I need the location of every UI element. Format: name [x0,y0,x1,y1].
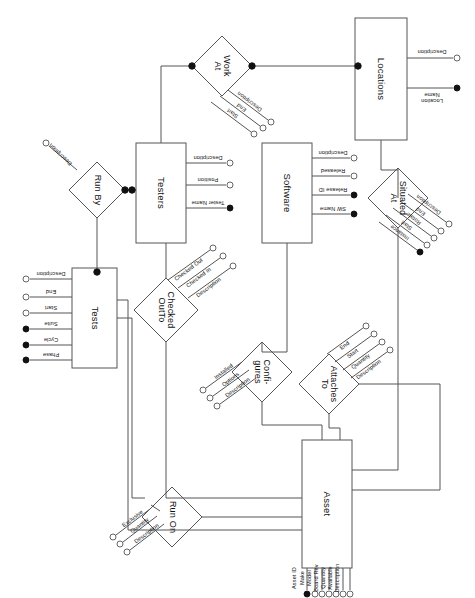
participation-dot-run-by-right [122,187,128,193]
attr-bubble-locations-description [454,55,460,61]
attr-bubble-tests-description [23,276,29,282]
attr-bubble-testers-position [227,182,233,188]
attr-bubble-testers-description [227,160,233,166]
participation-dot-locations-left [355,63,361,69]
attr-bubble-attaches-to-quantity [379,339,385,345]
attr-bubble-testers-tester-name [227,205,233,211]
entity-box-asset [302,440,352,568]
attr-bubble-attaches-to-start [371,331,377,337]
relationship-diamond-attaches-to [299,354,359,414]
attr-stem-run-on-exclusive [116,509,150,535]
attr-bubble-work-at-description [268,119,274,125]
relationship-diamond-checked-outto [134,278,198,342]
attr-stem-work-at-start [211,102,251,132]
attr-bubble-work-at-start [251,131,257,137]
entity-box-tests [72,268,117,368]
attr-bubble-asset-model [319,591,325,597]
relationship-diamond-work-at [192,36,252,96]
attr-bubble-situated-at-instance [417,249,423,255]
attr-stem-work-at-description [228,90,268,120]
attr-stem-attaches-to-start [335,336,371,362]
link-tests-run-on-a [117,318,145,498]
attr-stem-attaches-to-quantity [343,344,379,370]
attr-bubble-work-at-end [260,125,266,131]
attr-bubble-checked-outto-description [230,263,236,269]
relationship-diamond-run-by [69,162,125,218]
attr-bubble-software-release-id [351,192,357,198]
attr-bubble-software-description [351,155,357,161]
entity-box-software [262,143,312,243]
entity-box-locations [355,18,407,140]
attr-bubble-checked-outto-checked-out [210,245,216,251]
attr-bubble-situated-at-end [438,228,444,234]
attr-bubble-attaches-to-end [363,323,369,329]
relationship-diamond-run-on [142,487,202,547]
attr-bubble-asset-available [340,591,346,597]
attr-stem-run-by-description [49,146,77,170]
attr-bubble-tests-phase [23,357,29,363]
attr-bubble-software-sw-name [351,211,357,217]
attr-bubble-asset-board-rev [326,591,332,597]
attr-bubble-asset-quantity [333,591,339,597]
attr-bubble-software-released [351,173,357,179]
attr-bubble-situated-at-description [446,221,452,227]
attr-bubble-configures-description [214,403,220,409]
diagram-vector-layer [0,0,475,598]
attr-bubble-locations-location-name [454,85,460,91]
attr-bubble-asset-make [312,591,318,597]
attr-stem-checked-outto-description [188,268,230,298]
attr-bubble-situated-at-rotate [431,235,437,241]
attr-stem-checked-outto-checked-in [178,258,220,288]
link-asset-attaches-to-b [352,384,440,490]
attr-stem-run-on-description [130,524,164,550]
attr-bubble-attaches-to-description [387,347,393,353]
attr-bubble-run-on-description [124,549,130,555]
attr-bubble-situated-at-start [424,242,430,248]
entity-box-testers [136,143,186,243]
attr-stem-checked-outto-checked-out [168,250,210,280]
participation-dot-work-at-left [189,63,195,69]
link-attaches-to-asset-a [329,414,340,440]
attr-bubble-tests-suite [23,326,29,332]
er-diagram-canvas: LocationsTestersSoftwareTestsAssetDescri… [0,0,475,598]
participation-dot-tests-top [94,269,100,275]
attr-bubble-checked-outto-checked-in [220,253,226,259]
attr-bubble-tests-cycle [23,342,29,348]
attr-stem-attaches-to-description [351,352,387,378]
attr-bubble-configures-installed [200,387,206,393]
attr-bubble-asset-description [347,591,353,597]
attr-bubble-tests-end [23,294,29,300]
attr-stem-attaches-to-end [327,328,363,354]
attr-bubble-tests-start [23,310,29,316]
link-configures-asset [262,402,322,440]
attr-bubble-run-on-exclusive [110,534,116,540]
attr-stem-work-at-end [220,96,260,126]
attr-bubble-configures-options [207,395,213,401]
participation-dot-work-at-right [249,63,255,69]
attr-bubble-run-by-description [43,140,49,146]
attr-bubble-asset-asset-id [304,591,310,597]
link-tests-asset-lower [117,300,302,530]
participation-dot-testers-left [129,187,135,193]
attr-bubble-run-on-quantity [117,541,123,547]
